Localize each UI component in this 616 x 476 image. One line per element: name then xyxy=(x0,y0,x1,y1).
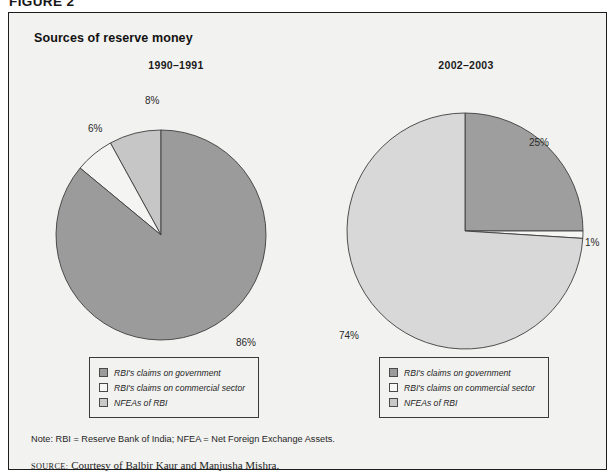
pie-chart-right: 25% 1% 74% xyxy=(321,75,611,353)
slice-label-left-commercial: 6% xyxy=(88,123,102,134)
chart-title-left: 1990–1991 xyxy=(31,59,321,71)
pie-right-slices xyxy=(347,113,583,349)
slice-label-right-commercial: 1% xyxy=(585,237,599,248)
source-keyword: source: xyxy=(31,462,68,471)
panel-title: Sources of reserve money xyxy=(34,31,193,45)
legend-swatch-commercial-icon xyxy=(389,383,398,392)
legend-label-government: RBI's claims on government xyxy=(114,368,221,378)
chart-title-right: 2002–2003 xyxy=(321,59,611,71)
note-line: Note: RBI = Reserve Bank of India; NFEA … xyxy=(31,434,335,444)
source-line: source: Courtesy of Balbir Kaur and Manj… xyxy=(31,459,279,471)
pie-slice-government xyxy=(465,113,583,231)
legend-right: RBI's claims on government RBI's claims … xyxy=(379,357,549,418)
pie-left-slices xyxy=(56,130,266,340)
legend-label-commercial: RBI's claims on commercial sector xyxy=(114,383,245,393)
slice-label-left-government: 86% xyxy=(236,337,256,348)
legend-label-commercial: RBI's claims on commercial sector xyxy=(404,383,535,393)
legend-swatch-nfea-icon xyxy=(99,398,108,407)
figure-frame: Sources of reserve money 1990–1991 8% 6%… xyxy=(8,12,607,470)
legend-swatch-nfea-icon xyxy=(389,398,398,407)
slice-label-right-government: 25% xyxy=(529,137,549,148)
legend-swatch-government-icon xyxy=(389,368,398,377)
legend-item-nfea: NFEAs of RBI xyxy=(389,395,538,410)
legend-item-government: RBI's claims on government xyxy=(389,365,538,380)
legend-label-nfea: NFEAs of RBI xyxy=(404,398,457,408)
pie-svg-left xyxy=(31,75,321,353)
legend-label-nfea: NFEAs of RBI xyxy=(114,398,167,408)
slice-label-left-nfea: 8% xyxy=(145,95,159,106)
legend-item-nfea: NFEAs of RBI xyxy=(99,395,248,410)
legend-item-commercial: RBI's claims on commercial sector xyxy=(389,380,538,395)
source-text: Courtesy of Balbir Kaur and Manjusha Mis… xyxy=(71,459,279,471)
legend-swatch-commercial-icon xyxy=(99,383,108,392)
pie-chart-left: 8% 6% 86% xyxy=(31,75,321,353)
legend-item-government: RBI's claims on government xyxy=(99,365,248,380)
legend-item-commercial: RBI's claims on commercial sector xyxy=(99,380,248,395)
slice-label-right-nfea: 74% xyxy=(339,330,359,341)
figure-label: FIGURE 2 xyxy=(9,0,74,9)
legend-left: RBI's claims on government RBI's claims … xyxy=(89,357,259,418)
legend-label-government: RBI's claims on government xyxy=(404,368,511,378)
legend-swatch-government-icon xyxy=(99,368,108,377)
pie-svg-right xyxy=(321,75,611,353)
